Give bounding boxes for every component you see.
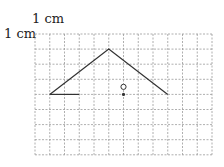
open-circle-icon xyxy=(121,84,126,89)
filled-dot-icon xyxy=(122,93,125,96)
grid-diagram xyxy=(0,0,224,167)
